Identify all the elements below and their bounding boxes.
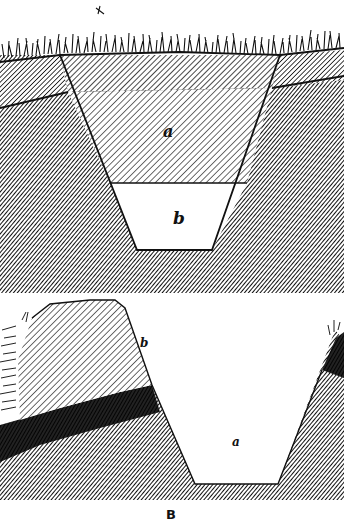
label-a-bottom: a <box>232 435 240 449</box>
grass-tufts <box>2 6 340 58</box>
bottom-panel: b a B <box>0 300 344 522</box>
figure-caption-b: B <box>166 507 176 522</box>
trench-cross-sections: a b b a B <box>0 0 344 523</box>
illustration-figure: a b b a B <box>0 0 344 523</box>
label-a-top: a <box>163 122 173 141</box>
trench-fill-upper <box>60 55 280 92</box>
top-panel: a b <box>0 6 344 293</box>
label-b-top: b <box>173 208 185 228</box>
label-b-bottom: b <box>140 336 148 350</box>
